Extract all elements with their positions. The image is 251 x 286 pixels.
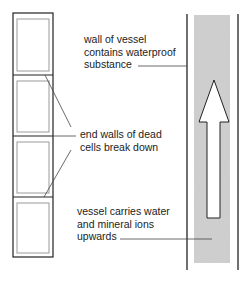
label-wall-line-1: wall of vessel bbox=[84, 33, 176, 46]
label-vessel-carries: vessel carries water and mineral ions up… bbox=[77, 205, 170, 243]
label-end-walls: end walls of dead cells break down bbox=[80, 128, 162, 153]
label-wall-of-vessel: wall of vessel contains waterproof subst… bbox=[84, 33, 176, 71]
cell-stack-outline bbox=[13, 13, 53, 257]
label-end-walls-line-2: cells break down bbox=[80, 141, 162, 154]
label-vessel-line-2: and mineral ions bbox=[77, 218, 170, 231]
label-end-walls-line-1: end walls of dead bbox=[80, 128, 162, 141]
vessel bbox=[187, 14, 238, 270]
label-vessel-line-3: upwards bbox=[77, 230, 170, 243]
label-vessel-line-1: vessel carries water bbox=[77, 205, 170, 218]
cell-stack bbox=[13, 13, 53, 257]
label-wall-line-2: contains waterproof bbox=[84, 46, 176, 59]
label-wall-line-3: substance bbox=[84, 58, 176, 71]
